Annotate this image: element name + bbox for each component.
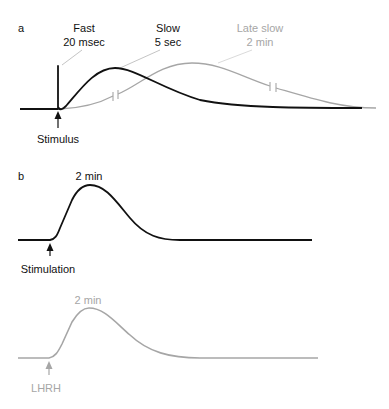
stimulus-label: Stimulus [37, 133, 80, 145]
fast-duration: 20 msec [63, 36, 105, 48]
late-slow-title: Late slow [237, 22, 284, 34]
fast-title: Fast [73, 22, 94, 34]
lhrh-peak-label: 2 min [75, 294, 102, 306]
stimulus-arrow-icon [55, 111, 62, 119]
panel-b-label: b [18, 170, 24, 182]
stimulation-label: Stimulation [21, 263, 75, 275]
lhrh-arrow-icon [46, 361, 53, 369]
lhrh-label: LHRH [31, 382, 61, 394]
fast-leader-line [62, 50, 82, 65]
fast-slow-response-curve [20, 66, 362, 109]
stimulation-arrow-icon [47, 243, 54, 251]
panel-a-label: a [18, 22, 25, 34]
figure: a Fast 20 msec Slow 5 sec Late slow 2 mi… [0, 0, 389, 409]
late-slow-duration: 2 min [247, 36, 274, 48]
late-slow-curve-seg2 [118, 63, 270, 94]
lhrh-response-curve [18, 308, 318, 358]
slow-title: Slow [156, 22, 180, 34]
stimulation-response-curve [18, 185, 312, 240]
slow-leader-line [120, 50, 160, 68]
late-slow-leader-line [218, 50, 252, 63]
late-slow-curve-seg3 [276, 88, 376, 108]
slow-duration: 5 sec [155, 36, 182, 48]
panel-b-peak-label: 2 min [76, 170, 103, 182]
